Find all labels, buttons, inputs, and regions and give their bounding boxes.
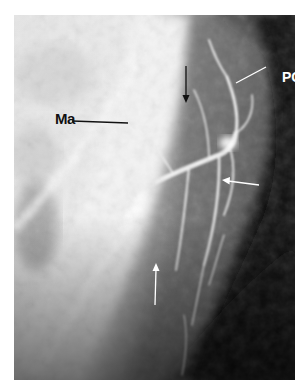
radiograph-render (14, 15, 295, 380)
radiograph-image: Ma PG (14, 15, 295, 380)
label-ma: Ma (55, 111, 75, 126)
label-pg: PG (282, 70, 295, 84)
